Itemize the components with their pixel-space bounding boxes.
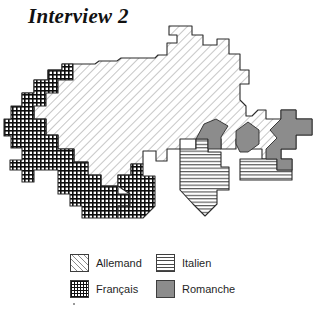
swatch-allemand-icon xyxy=(70,254,89,272)
legend-label-allemand: Allemand xyxy=(96,257,142,269)
legend-item-romanche: Romanche xyxy=(156,278,242,300)
swatch-francais-icon xyxy=(70,280,89,298)
swatch-italien-icon xyxy=(156,254,175,272)
map-region-italien xyxy=(180,139,229,216)
legend-label-francais: Français xyxy=(96,283,138,295)
map-legend: Allemand Italien Français Romanche xyxy=(70,251,255,303)
legend-item-francais: Français xyxy=(70,278,156,300)
legend-item-italien: Italien xyxy=(156,252,242,274)
legend-item-allemand: Allemand xyxy=(70,252,156,274)
legend-label-italien: Italien xyxy=(182,257,211,269)
legend-artifact-dot xyxy=(73,303,75,305)
swatch-romanche-icon xyxy=(156,280,175,298)
switzerland-language-map xyxy=(0,18,335,246)
legend-label-romanche: Romanche xyxy=(182,283,235,295)
language-map-figure xyxy=(0,18,335,246)
